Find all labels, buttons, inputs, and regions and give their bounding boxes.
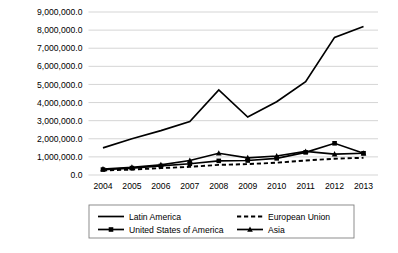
line-chart: 0.01,000,000.02,000,000.03,000,000.04,00… (0, 0, 398, 253)
legend: Latin AmericaEuropean UnionUnited States… (89, 205, 354, 238)
legend-label: Latin America (129, 212, 181, 222)
y-axis-tick-label: 8,000,000.0 (37, 25, 83, 35)
legend-label: United States of America (129, 225, 224, 235)
y-axis-tick-label: 9,000,000.0 (37, 7, 83, 17)
x-axis-tick-label: 2010 (267, 181, 286, 191)
series-line (103, 26, 364, 147)
x-axis-tick-label: 2013 (354, 181, 373, 191)
y-axis-tick-label: 4,000,000.0 (37, 98, 83, 108)
chart-canvas: 0.01,000,000.02,000,000.03,000,000.04,00… (0, 0, 398, 253)
x-axis-tick-label: 2009 (238, 181, 257, 191)
series-latin-america (103, 26, 364, 147)
y-axis-tick-label: 6,000,000.0 (37, 61, 83, 71)
y-axis-tick-label: 7,000,000.0 (37, 43, 83, 53)
series-line (103, 158, 364, 171)
legend-label: Asia (268, 225, 285, 235)
legend-label: European Union (268, 212, 330, 222)
x-axis-tick-label: 2008 (209, 181, 228, 191)
y-axis-tick-label: 0.0 (71, 170, 83, 180)
y-axis-tick-label: 5,000,000.0 (37, 80, 83, 90)
y-axis-labels: 0.01,000,000.02,000,000.03,000,000.04,00… (37, 7, 83, 180)
data-point-marker-square (332, 141, 337, 146)
series-european-union (103, 158, 364, 171)
x-axis-tick-label: 2007 (180, 181, 199, 191)
y-axis-tick-label: 3,000,000.0 (37, 116, 83, 126)
data-point-marker-square (216, 159, 221, 164)
x-axis-tick-label: 2006 (151, 181, 170, 191)
y-axis-tick-label: 1,000,000.0 (37, 152, 83, 162)
gridlines (89, 12, 379, 175)
y-axis-tick-label: 2,000,000.0 (37, 134, 83, 144)
x-axis-tick-label: 2004 (93, 181, 112, 191)
x-axis-labels: 2004200520062007200820092010201120122013 (93, 181, 373, 191)
data-point-marker-square (109, 227, 114, 232)
x-axis-tick-label: 2005 (122, 181, 141, 191)
x-axis-tick-label: 2011 (296, 181, 315, 191)
x-axis-tick-label: 2012 (325, 181, 344, 191)
